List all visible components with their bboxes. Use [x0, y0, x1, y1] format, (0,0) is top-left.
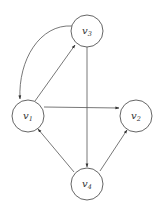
node-v3: v3 — [71, 15, 103, 47]
graph-canvas: v3 v1 v2 v4 — [0, 0, 161, 217]
edge-v4-v1 — [38, 129, 74, 172]
node-v2: v2 — [120, 100, 152, 132]
edge-v1-v2 — [44, 107, 119, 108]
node-v1-sub: 1 — [29, 115, 33, 123]
node-v3-sub: 3 — [88, 30, 92, 38]
node-v1: v1 — [12, 100, 44, 132]
node-v2-sub: 2 — [136, 115, 141, 123]
node-v4-sub: 4 — [87, 183, 92, 191]
edge-v4-v2 — [100, 130, 127, 171]
edge-v1-v3 — [35, 45, 75, 101]
node-v4: v4 — [71, 168, 103, 200]
edge-v3-v1 — [20, 26, 72, 99]
